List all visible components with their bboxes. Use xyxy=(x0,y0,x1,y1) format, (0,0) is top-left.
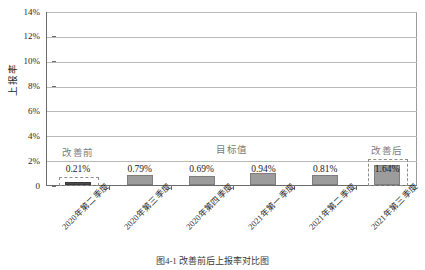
x-label-2021-q1: 2021年第一季度 xyxy=(246,190,288,232)
bar-value-2020-q2: 0.21% xyxy=(47,164,109,174)
gridline-10 xyxy=(47,62,417,63)
bar-value-2020-q4: 0.69% xyxy=(171,164,233,174)
plot-area: 0.21% 0.79% 0.69% 0.94% 0.81% 1.64% 改善前 … xyxy=(46,12,417,186)
y-tick-label-4: 4% xyxy=(28,132,40,141)
y-axis-tick-labels: 14% 12% 10% 8% 6% 4% 2% 0 xyxy=(8,0,42,270)
annotation-label-target: 目标值 xyxy=(201,145,263,155)
gridline-8 xyxy=(47,87,417,88)
bar-2021-q1[interactable] xyxy=(250,173,276,185)
gridline-4 xyxy=(47,136,417,137)
gridline-2 xyxy=(47,161,417,162)
bar-2020-q3[interactable] xyxy=(127,175,153,185)
plot-right-border xyxy=(416,12,417,185)
bar-2020-q4[interactable] xyxy=(189,176,215,185)
bar-2021-q2[interactable] xyxy=(312,175,338,185)
annotation-label-after: 改善后 xyxy=(356,146,418,156)
annotation-box-after xyxy=(368,159,408,186)
y-tick-label-0: 0 xyxy=(36,182,41,191)
gridline-6 xyxy=(47,111,417,112)
gridline-12 xyxy=(47,37,417,38)
x-axis-tick-labels: 2020年第二季度 2020年第三季度 2020年第四季度 2021年第一季度 … xyxy=(46,186,417,246)
x-label-2021-q3: 2021年第三季度 xyxy=(370,190,412,232)
y-tick-label-6: 6% xyxy=(28,107,40,116)
x-label-2020-q4: 2020年第四季度 xyxy=(184,190,226,232)
x-label-2021-q2: 2021年第二季度 xyxy=(308,190,350,232)
y-tick-label-10: 10% xyxy=(24,57,41,66)
annotation-label-before: 改善前 xyxy=(47,148,109,158)
figure-caption: 图4-1 改善前后上报率对比图 xyxy=(0,256,425,267)
y-tick-label-12: 12% xyxy=(24,32,41,41)
y-tick-label-14: 14% xyxy=(24,8,41,17)
bar-value-2020-q3: 0.79% xyxy=(109,164,171,174)
x-label-2020-q3: 2020年第三季度 xyxy=(122,190,164,232)
bar-value-2021-q2: 0.81% xyxy=(294,164,356,174)
annotation-box-before xyxy=(59,177,99,186)
bar-chart-figure: 上报率 14% 12% 10% 8% 6% 4% 2% 0 xyxy=(0,0,425,270)
gridline-14 xyxy=(47,12,417,13)
y-tick-label-2: 2% xyxy=(28,157,40,166)
bar-value-2021-q1: 0.94% xyxy=(233,164,295,174)
y-tick-label-8: 8% xyxy=(28,82,40,91)
x-label-2020-q2: 2020年第二季度 xyxy=(61,190,103,232)
